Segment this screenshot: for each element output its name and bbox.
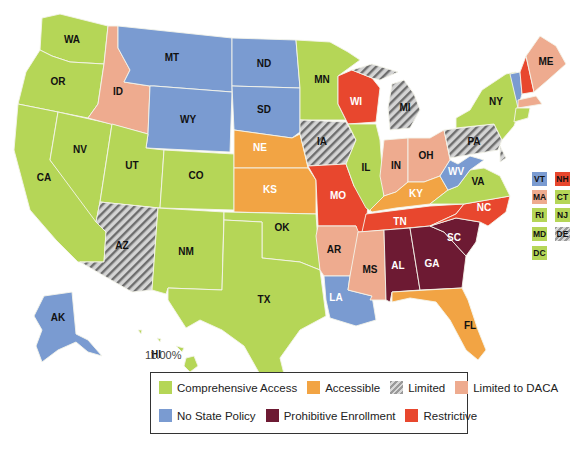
map-legend: Comprehensive Access Accessible Limited … [150,372,468,434]
swatch-icon [159,381,172,394]
state-label-CO: CO [189,170,204,181]
legend-label: Comprehensive Access [177,382,297,394]
state-label-OR: OR [51,76,67,87]
state-label-MO: MO [330,190,346,201]
legend-item-no-policy: No State Policy [159,409,256,422]
side-box-NH[interactable]: NH [555,172,570,186]
state-label-SD: SD [257,104,271,115]
state-label-FL: FL [464,320,476,331]
swatch-icon [455,381,468,394]
side-box-MD[interactable]: MD [532,227,547,241]
state-label-OH: OH [419,150,434,161]
side-box-DC[interactable]: DC [532,246,547,260]
state-label-PA: PA [467,136,480,147]
state-label-ID: ID [113,86,123,97]
state-label-SC: SC [447,232,461,243]
swatch-icon [307,381,320,394]
state-CT[interactable] [514,108,530,122]
legend-item-limited-daca: Limited to DACA [455,381,558,394]
legend-row-1: Comprehensive Access Accessible Limited … [159,381,568,394]
legend-label: Accessible [325,382,380,394]
state-DE[interactable] [500,146,506,162]
legend-row-2: No State Policy Prohibitive Enrollment R… [159,409,487,422]
legend-label: No State Policy [177,410,256,422]
side-box-NJ[interactable]: NJ [555,208,570,222]
state-MA[interactable] [518,96,542,108]
legend-item-restrictive: Restrictive [405,409,477,422]
state-label-CA: CA [37,172,51,183]
state-label-AL: AL [391,260,404,271]
side-box-VT[interactable]: VT [532,172,547,186]
state-label-MS: MS [363,264,378,275]
state-label-AK: AK [51,312,66,323]
state-label-KY: KY [409,188,423,199]
legend-item-comprehensive: Comprehensive Access [159,381,297,394]
legend-label: Limited to DACA [473,382,558,394]
legend-label: Restrictive [423,410,477,422]
state-label-WI: WI [350,96,362,107]
side-box-CT[interactable]: CT [555,190,570,204]
state-label-TN: TN [393,216,406,227]
legend-label: Limited [408,382,445,394]
state-label-UT: UT [125,160,138,171]
swatch-icon [159,409,172,422]
state-label-ME: ME [539,56,554,67]
state-label-TX: TX [258,294,271,305]
state-label-ND: ND [257,58,271,69]
swatch-icon [405,409,418,422]
legend-item-accessible: Accessible [307,381,380,394]
hatch-swatch-icon [390,381,403,394]
hawaii-percentage: 11.00% [145,349,182,361]
state-label-AR: AR [327,244,342,255]
legend-item-limited: Limited [390,381,445,394]
state-NE[interactable] [234,130,308,168]
state-label-AZ: AZ [115,240,128,251]
state-label-LA: LA [329,292,342,303]
state-label-IN: IN [391,160,401,171]
state-label-VA: VA [471,176,484,187]
state-label-WV: WV [448,166,464,177]
legend-label: Prohibitive Enrollment [284,410,396,422]
state-label-NY: NY [489,96,503,107]
side-box-DE[interactable]: DE [555,227,570,241]
state-label-MT: MT [165,52,179,63]
state-label-NM: NM [178,246,194,257]
side-box-RI[interactable]: RI [532,208,547,222]
legend-item-prohibitive: Prohibitive Enrollment [266,409,396,422]
state-AK[interactable] [34,292,102,362]
swatch-icon [266,409,279,422]
state-label-WY: WY [180,114,196,125]
state-label-IL: IL [362,162,371,173]
state-label-IA: IA [317,136,327,147]
state-label-KS: KS [263,184,277,195]
state-label-OK: OK [275,222,291,233]
state-label-WA: WA [64,34,80,45]
state-label-NV: NV [73,144,87,155]
state-label-GA: GA [425,258,440,269]
state-label-MN: MN [314,74,330,85]
state-label-NC: NC [477,202,491,213]
state-label-MI: MI [399,102,410,113]
side-box-MA[interactable]: MA [532,190,547,204]
state-label-NE: NE [253,142,267,153]
